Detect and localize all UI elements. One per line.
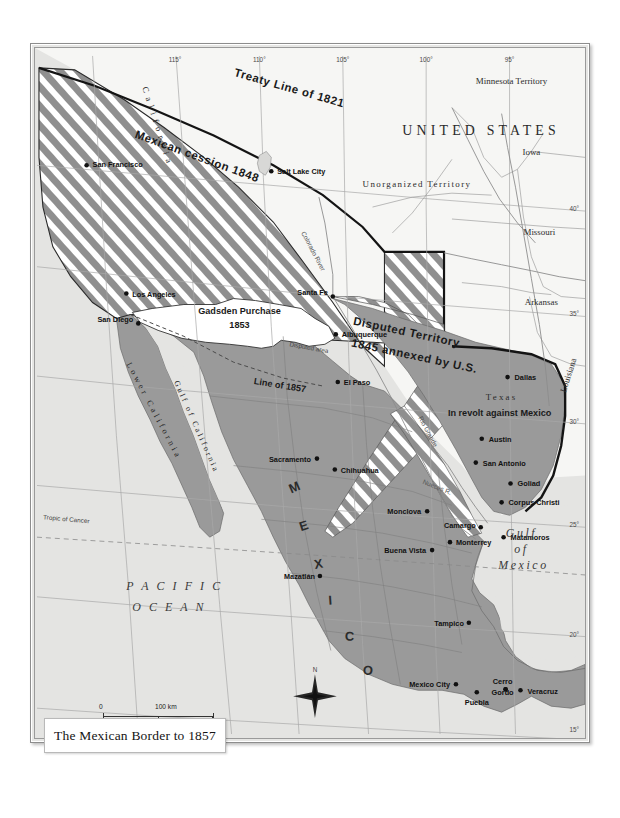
label-gulf-mexico-line1: Gulf	[506, 526, 537, 540]
label-gulf-mexico-line2: of	[514, 542, 528, 556]
city-dot	[334, 332, 339, 337]
city-dot	[124, 291, 129, 296]
label-missouri: Missouri	[523, 227, 555, 237]
city-dot	[331, 294, 336, 299]
city-label: Austin	[489, 435, 512, 444]
city-dot	[474, 460, 479, 465]
label-texas-revolt: In revolt against Mexico	[448, 408, 552, 418]
svg-text:O: O	[362, 662, 374, 678]
latitude-label: 15°	[569, 726, 579, 733]
city-dot	[518, 688, 523, 693]
city-label: San Antonio	[483, 459, 526, 468]
label-texas: Texas	[486, 392, 518, 402]
city-dot	[478, 525, 483, 530]
map-frame: San FranciscoSalt Lake CityLos AngelesSa…	[30, 43, 590, 743]
longitude-label: 105°	[336, 56, 350, 63]
city-label: Monterrey	[456, 538, 492, 547]
latitude-label: 25°	[569, 521, 579, 528]
city-label: Cerro	[493, 677, 513, 686]
city-label: Santa Fe	[297, 288, 328, 297]
city-label: Chihuahua	[341, 466, 380, 475]
label-gulf-mexico-line3: Mexico	[497, 558, 549, 572]
city-label: Camargo	[444, 521, 476, 530]
label-pacific-line2: O C E A N	[132, 600, 206, 614]
city-dot	[336, 380, 341, 385]
longitude-label: 115°	[169, 56, 182, 63]
label-minnesota-territory: Minnesota Territory	[476, 76, 548, 86]
city-label: Dallas	[515, 373, 537, 382]
latitude-label: 20°	[569, 631, 579, 638]
city-label: Veracruz	[527, 687, 558, 696]
city-dot	[499, 500, 504, 505]
city-label: San Francisco	[93, 160, 144, 169]
city-label: Gordo	[492, 688, 515, 697]
city-dot	[454, 682, 459, 687]
label-united-states: UNITED STATES	[402, 123, 560, 138]
longitude-label: 110°	[253, 56, 266, 63]
annotation-gadsden-purchase: Gadsden Purchase	[198, 306, 281, 316]
scale-km-zero: 0	[99, 703, 103, 710]
city-label: Tampico	[434, 619, 464, 628]
city-label: Monclova	[387, 507, 422, 516]
label-pacific-line1: P A C I F I C	[125, 579, 222, 593]
city-dot	[448, 540, 453, 545]
city-dot	[505, 375, 510, 380]
city-label: El Paso	[344, 378, 371, 387]
latitude-label: 35°	[569, 310, 579, 317]
longitude-label: 95°	[505, 56, 515, 63]
label-iowa: Iowa	[522, 147, 540, 157]
city-dot	[315, 456, 320, 461]
map-inner-frame: San FranciscoSalt Lake CityLos AngelesSa…	[34, 47, 586, 739]
city-dot	[508, 481, 513, 486]
city-label: Buena Vista	[384, 546, 427, 555]
compass-north-label: N	[313, 666, 318, 673]
latitude-label: 30°	[569, 418, 579, 425]
label-arkansas: Arkansas	[525, 297, 559, 307]
longitude-label: 100°	[420, 56, 434, 63]
city-label: San Diego	[97, 315, 133, 324]
city-label: Puebla	[465, 698, 490, 707]
annotation-gadsden-year: 1853	[229, 320, 249, 330]
city-dot	[475, 690, 480, 695]
city-dot	[84, 163, 89, 168]
city-label: Mexico City	[409, 680, 451, 689]
city-label: Salt Lake City	[277, 167, 326, 176]
city-dot	[318, 574, 323, 579]
scale-km-max: 100 km	[155, 703, 177, 710]
map-title-box: The Mexican Border to 1857	[44, 718, 226, 753]
map-page: San FranciscoSalt Lake CityLos AngelesSa…	[0, 0, 620, 818]
map-title: The Mexican Border to 1857	[54, 728, 216, 744]
city-dot	[467, 620, 472, 625]
label-unorganized-territory: Unorganized Territory	[363, 179, 472, 189]
city-label: Mazatlán	[284, 572, 316, 581]
city-label: Corpus Christi	[509, 498, 560, 507]
city-dot	[479, 436, 484, 441]
city-label: Goliad	[517, 479, 540, 488]
city-label: Los Angeles	[132, 290, 175, 299]
city-label: Sacramento	[269, 455, 312, 464]
historical-map: San FranciscoSalt Lake CityLos AngelesSa…	[35, 48, 585, 738]
city-dot	[136, 321, 141, 326]
svg-text:C: C	[345, 629, 355, 644]
city-dot	[269, 169, 274, 174]
city-dot	[425, 509, 430, 514]
latitude-label: 40°	[569, 205, 579, 212]
city-dot	[430, 548, 435, 553]
city-dot	[333, 467, 338, 472]
